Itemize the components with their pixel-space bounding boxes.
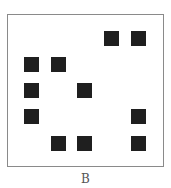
filled-cell bbox=[51, 57, 66, 72]
filled-cell bbox=[131, 31, 146, 46]
filled-cell bbox=[131, 109, 146, 124]
figure-label: B bbox=[0, 172, 171, 186]
filled-cell bbox=[24, 57, 39, 72]
filled-cell bbox=[104, 31, 119, 46]
filled-cell bbox=[77, 83, 92, 98]
filled-cell bbox=[24, 83, 39, 98]
filled-cell bbox=[131, 136, 146, 151]
filled-cell bbox=[77, 136, 92, 151]
filled-cell bbox=[24, 109, 39, 124]
filled-cell bbox=[51, 136, 66, 151]
grid-frame bbox=[7, 14, 164, 167]
